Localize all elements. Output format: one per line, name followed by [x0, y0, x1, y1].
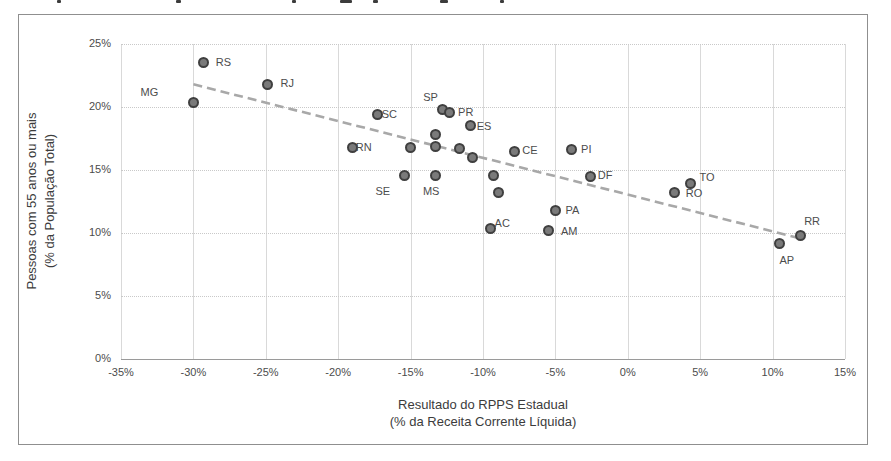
- point-label-rj: RJ: [280, 77, 293, 89]
- x-axis-tick-label: 10%: [748, 366, 798, 378]
- point-label-rn: RN: [356, 141, 372, 153]
- data-point-to: [685, 178, 696, 189]
- point-label-sp: SP: [423, 91, 438, 103]
- data-point: [430, 129, 441, 140]
- point-label-rr: RR: [804, 215, 820, 227]
- x-axis-title-line1: Resultado do RPPS Estadual: [121, 396, 845, 413]
- point-label-am: AM: [561, 225, 578, 237]
- data-point-pr: [444, 107, 455, 118]
- point-label-pi: PI: [581, 143, 591, 155]
- data-point-se: [399, 170, 410, 181]
- cropped-text-fragment: [292, 0, 296, 3]
- x-axis-tick-label: -20%: [313, 366, 363, 378]
- y-axis-title-line2: (% da População Total): [41, 44, 59, 359]
- x-axis-title: Resultado do RPPS Estadual (% da Receita…: [121, 396, 845, 430]
- x-axis-tick-label: -10%: [458, 366, 508, 378]
- x-axis-tick-label: 0%: [603, 366, 653, 378]
- x-axis-tick-label: -25%: [241, 366, 291, 378]
- y-axis-tick-label: 10%: [61, 226, 111, 238]
- cropped-text-fragment: [57, 0, 61, 3]
- x-axis-tick-label: 15%: [820, 366, 870, 378]
- y-axis-tick-label: 20%: [61, 100, 111, 112]
- data-point-ce: [509, 146, 520, 157]
- x-axis-tick-label: -15%: [386, 366, 436, 378]
- y-axis-title-line1: Pessoas com 55 anos ou mais: [23, 44, 41, 359]
- data-point: [405, 142, 416, 153]
- point-label-ce: CE: [522, 144, 537, 156]
- point-label-rs: RS: [216, 56, 231, 68]
- point-label-pr: PR: [458, 106, 473, 118]
- data-point-ms: [430, 170, 441, 181]
- point-label-pa: PA: [565, 204, 579, 216]
- x-axis-tick-label: -30%: [168, 366, 218, 378]
- point-label-to: TO: [700, 171, 715, 183]
- cropped-text-fragment: [176, 0, 181, 3]
- cropped-text-fragment: [340, 0, 352, 3]
- y-axis-tick-label: 15%: [61, 163, 111, 175]
- point-label-ac: AC: [495, 217, 510, 229]
- data-point: [488, 170, 499, 181]
- y-axis-tick-label: 5%: [61, 289, 111, 301]
- cropped-text-fragment: [440, 0, 448, 3]
- data-point-es: [465, 120, 476, 131]
- x-axis-title-line2: (% da Receita Corrente Líquida): [121, 413, 845, 430]
- data-point-df: [585, 171, 596, 182]
- x-axis-tick-label: -5%: [530, 366, 580, 378]
- data-point-ro: [669, 187, 680, 198]
- point-label-ms: MS: [423, 185, 440, 197]
- cropped-text-fragment: [500, 0, 504, 3]
- data-point-ap: [774, 238, 785, 249]
- data-point: [430, 141, 441, 152]
- plot-area: Resultado do RPPS Estadual (% da Receita…: [121, 44, 845, 360]
- y-axis-tick-label: 0%: [61, 352, 111, 364]
- point-label-sc: SC: [382, 108, 397, 120]
- data-point-am: [543, 225, 554, 236]
- trend-line: [121, 44, 845, 359]
- data-point-pa: [550, 205, 561, 216]
- point-label-ap: AP: [779, 254, 794, 266]
- x-axis-tick-label: -35%: [96, 366, 146, 378]
- point-label-se: SE: [375, 185, 390, 197]
- cropped-text-fragment: [373, 0, 378, 3]
- x-axis-tick-label: 5%: [675, 366, 725, 378]
- y-axis-tick-label: 25%: [61, 37, 111, 49]
- data-point-mg: [188, 97, 199, 108]
- data-point-rr: [795, 230, 806, 241]
- data-point-rj: [262, 79, 273, 90]
- chart-frame: Resultado do RPPS Estadual (% da Receita…: [18, 14, 868, 445]
- point-label-es: ES: [477, 120, 492, 132]
- point-label-mg: MG: [141, 86, 159, 98]
- top-text-fragments: [0, 0, 891, 5]
- vertical-gridline: [845, 44, 846, 359]
- y-axis-title: Pessoas com 55 anos ou mais (% da Popula…: [23, 44, 59, 359]
- point-label-df: DF: [598, 169, 613, 181]
